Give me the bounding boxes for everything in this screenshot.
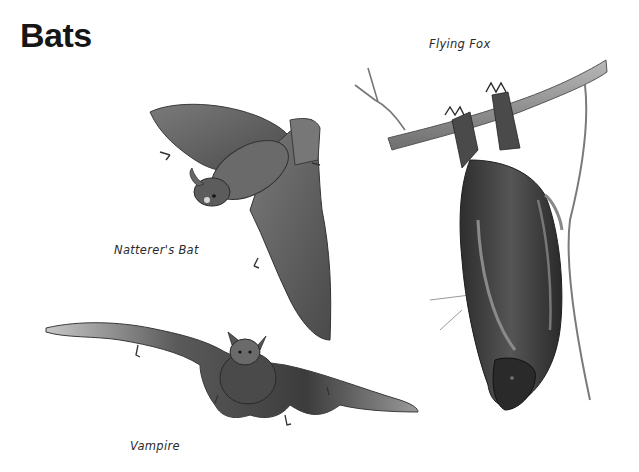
natterers-bat-caption: Natterer's Bat: [114, 243, 199, 257]
book-page: Bats Flying Fox Natterer's Bat Vampire: [0, 0, 639, 472]
page-title: Bats: [20, 18, 92, 52]
bat-illustrations: [0, 0, 639, 472]
natterers-bat-illustration: [150, 104, 331, 340]
flying-fox-caption: Flying Fox: [429, 37, 491, 51]
flying-fox-illustration: [355, 60, 607, 410]
vampire-caption: Vampire: [130, 439, 180, 453]
vampire-bat-illustration: [46, 323, 418, 425]
